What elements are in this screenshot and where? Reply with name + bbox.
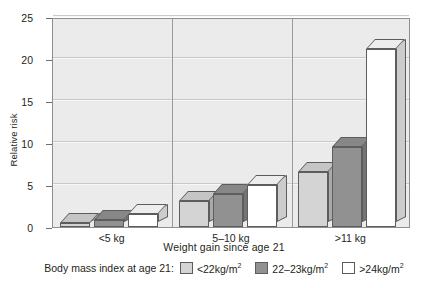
bar-front-face bbox=[60, 223, 90, 227]
y-tick-label: 15 bbox=[7, 96, 33, 108]
legend-label-superscript: 2 bbox=[324, 262, 328, 269]
bar-chart-figure: Relative risk 0510152025 <5 kg5–10 kg>11… bbox=[0, 0, 448, 288]
legend-label-superscript: 2 bbox=[237, 262, 241, 269]
bar bbox=[332, 147, 362, 227]
bar bbox=[94, 220, 124, 227]
bar bbox=[247, 185, 277, 227]
legend-label: 22–23kg/m2 bbox=[272, 262, 328, 275]
bar bbox=[128, 214, 158, 227]
bar-front-face bbox=[332, 147, 362, 227]
y-tick-mark bbox=[46, 18, 52, 19]
legend-item[interactable]: <22kg/m2 bbox=[180, 262, 241, 275]
bar-front-face bbox=[298, 172, 328, 227]
bar bbox=[366, 49, 396, 227]
y-tick-mark bbox=[46, 60, 52, 61]
legend-swatch bbox=[180, 262, 193, 274]
y-tick-label: 25 bbox=[7, 12, 33, 24]
y-tick-label: 20 bbox=[7, 54, 33, 66]
y-tick-mark bbox=[46, 144, 52, 145]
bar-front-face bbox=[128, 214, 158, 227]
legend-title: Body mass index at age 21: bbox=[44, 262, 174, 274]
y-tick-label: 0 bbox=[7, 222, 33, 234]
bar-front-face bbox=[213, 194, 243, 227]
bar-front-face bbox=[247, 185, 277, 227]
bar bbox=[213, 194, 243, 227]
y-tick-label: 5 bbox=[7, 180, 33, 192]
plot-area bbox=[52, 18, 410, 228]
bar bbox=[60, 223, 90, 227]
legend-swatch bbox=[342, 262, 355, 274]
bar-front-face bbox=[179, 201, 209, 227]
bar bbox=[179, 201, 209, 227]
x-axis-title: Weight gain since age 21 bbox=[0, 241, 448, 253]
y-tick-mark bbox=[46, 186, 52, 187]
legend-label: >24kg/m2 bbox=[359, 262, 403, 275]
bar bbox=[298, 172, 328, 227]
legend-label-superscript: 2 bbox=[400, 262, 404, 269]
bar-side-face bbox=[396, 39, 406, 222]
bar-front-face bbox=[366, 49, 396, 227]
legend-item[interactable]: >24kg/m2 bbox=[342, 262, 403, 275]
gridline bbox=[53, 15, 409, 17]
y-tick-mark bbox=[46, 228, 52, 229]
legend-swatch bbox=[255, 262, 268, 274]
legend-item[interactable]: 22–23kg/m2 bbox=[255, 262, 328, 275]
gridline bbox=[53, 57, 409, 59]
group-separator bbox=[172, 19, 173, 227]
legend-label: <22kg/m2 bbox=[197, 262, 241, 275]
gridline bbox=[53, 99, 409, 101]
y-tick-label: 10 bbox=[7, 138, 33, 150]
y-tick-mark bbox=[46, 102, 52, 103]
legend: Body mass index at age 21: <22kg/m222–23… bbox=[0, 262, 448, 275]
bar-front-face bbox=[94, 220, 124, 227]
group-separator bbox=[292, 19, 293, 227]
